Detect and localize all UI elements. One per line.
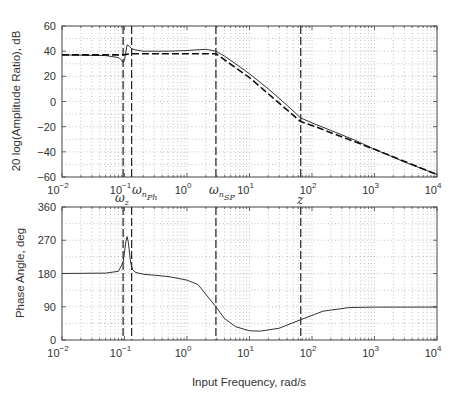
- phase-y-axis-label: Phase Angle, deg: [14, 228, 26, 318]
- magnitude-y-tick-label: 0: [50, 96, 56, 108]
- phase-y-tick-label: 180: [38, 268, 56, 280]
- zero-z-label: z: [296, 193, 304, 207]
- magnitude-y-tick-label: −40: [37, 146, 56, 158]
- phase-x-tick-label: 104: [425, 344, 442, 359]
- phase-x-tick-label: 101: [237, 344, 254, 359]
- magnitude-grid: [62, 26, 437, 177]
- omega-n-ph-label: ωnPh: [132, 183, 158, 202]
- magnitude-y-tick-label: −20: [37, 121, 56, 133]
- magnitude-x-tick-label: 100: [175, 181, 192, 196]
- magnitude-y-tick-label: 40: [44, 45, 56, 57]
- phase-y-tick-label: 0: [50, 334, 56, 346]
- magnitude-series-exact: [62, 45, 437, 175]
- omega-z-label: ωz: [115, 191, 130, 207]
- phase-grid: [62, 207, 437, 340]
- phase-x-tick-label: 100: [175, 344, 192, 359]
- magnitude-y-tick-label: 60: [44, 20, 56, 32]
- phase-plot: 36027018090010−210−1100101102103104: [38, 201, 442, 359]
- bode-plot-figure: 6040200−20−40−6010−210−1100101102103104 …: [0, 0, 464, 396]
- phase-x-tick-label: 103: [362, 344, 379, 359]
- phase-x-tick-label: 102: [300, 344, 317, 359]
- magnitude-x-tick-label: 10−2: [47, 181, 69, 196]
- magnitude-y-axis-label: 20 log(Amplitude Ratio), dB: [10, 30, 22, 171]
- magnitude-y-tick-label: −60: [37, 171, 56, 183]
- phase-y-tick-label: 360: [38, 201, 56, 213]
- phase-x-tick-label: 10−2: [47, 344, 69, 359]
- magnitude-x-tick-label: 101: [237, 181, 254, 196]
- magnitude-plot: 6040200−20−40−6010−210−1100101102103104: [37, 20, 442, 196]
- x-axis-label: Input Frequency, rad/s: [192, 376, 306, 388]
- phase-y-tick-label: 270: [38, 234, 56, 246]
- omega-n-sp-label: ωnSP: [209, 183, 235, 202]
- phase-y-tick-label: 90: [44, 301, 56, 313]
- phase-series-phase: [62, 237, 437, 332]
- magnitude-y-tick-label: 20: [44, 70, 56, 82]
- magnitude-x-tick-label: 104: [425, 181, 442, 196]
- phase-x-tick-label: 10−1: [110, 344, 132, 359]
- magnitude-x-tick-label: 103: [362, 181, 379, 196]
